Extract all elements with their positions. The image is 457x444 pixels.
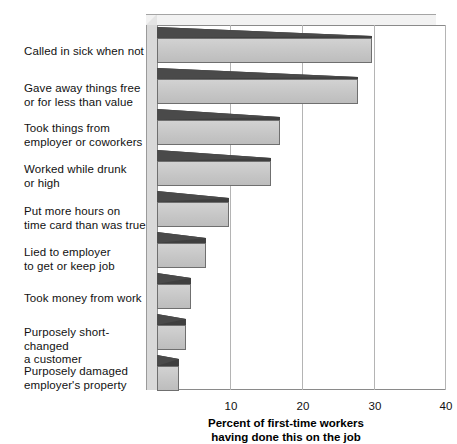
category-labels: Called in sick when not Gave away things… (0, 0, 146, 444)
x-axis-title-line2: having done this on the job (200, 430, 372, 444)
bar-front-face (157, 202, 229, 227)
bar-front-face (157, 243, 206, 268)
bar-front-face (157, 38, 372, 63)
bar-top-face (157, 191, 229, 202)
bar-front-face (157, 120, 280, 145)
xtick-label-20: 20 (288, 400, 318, 412)
bar-put-more-hours (157, 202, 229, 227)
category-label-put-more-hours: Put more hours on time card than was tru… (24, 205, 146, 232)
plot-frame-top-edge (146, 14, 436, 15)
bar-top-face (157, 232, 206, 243)
category-label-gave-away-things: Gave away things free or for less than v… (24, 82, 141, 109)
xtick-label-40: 40 (431, 400, 457, 412)
bar-top-face (157, 273, 191, 284)
gridline-30 (374, 25, 375, 390)
bar-front-face (157, 284, 191, 309)
gridline-40 (445, 25, 446, 390)
bar-gave-away-things (157, 79, 358, 104)
xtick-label-10: 10 (216, 400, 246, 412)
bar-short-changed (157, 325, 186, 350)
bar-worked-while-drunk (157, 161, 271, 186)
bar-front-face (157, 79, 358, 104)
bar-purposely-damaged (157, 366, 179, 391)
bar-front-face (157, 366, 179, 391)
xtick-label-30: 30 (360, 400, 390, 412)
bar-top-face (157, 355, 179, 366)
bar-lied-to-employer (157, 243, 206, 268)
bar-top-face (157, 150, 271, 161)
category-label-lied-to-employer: Lied to employer to get or keep job (24, 246, 115, 273)
category-label-called-in-sick: Called in sick when not (24, 45, 144, 59)
bar-took-money (157, 284, 191, 309)
category-label-took-money: Took money from work (24, 292, 142, 306)
bar-front-face (157, 161, 271, 186)
bar-called-in-sick (157, 38, 372, 63)
bar-top-face (157, 314, 186, 325)
category-label-took-things: Took things from employer or coworkers (24, 122, 142, 149)
bar-top-face (157, 68, 358, 79)
bar-top-face (157, 109, 280, 120)
bar-top-face (157, 27, 372, 38)
x-axis-title-line1: Percent of first-time workers (200, 416, 372, 430)
category-label-worked-while-drunk: Worked while drunk or high (24, 163, 127, 190)
plot-area (146, 14, 452, 396)
bar-took-things (157, 120, 280, 145)
category-label-purposely-damaged: Purposely damaged employer's property (24, 365, 128, 392)
category-label-short-changed: Purposely short-changed a customer (24, 326, 146, 367)
bar-front-face (157, 325, 186, 350)
